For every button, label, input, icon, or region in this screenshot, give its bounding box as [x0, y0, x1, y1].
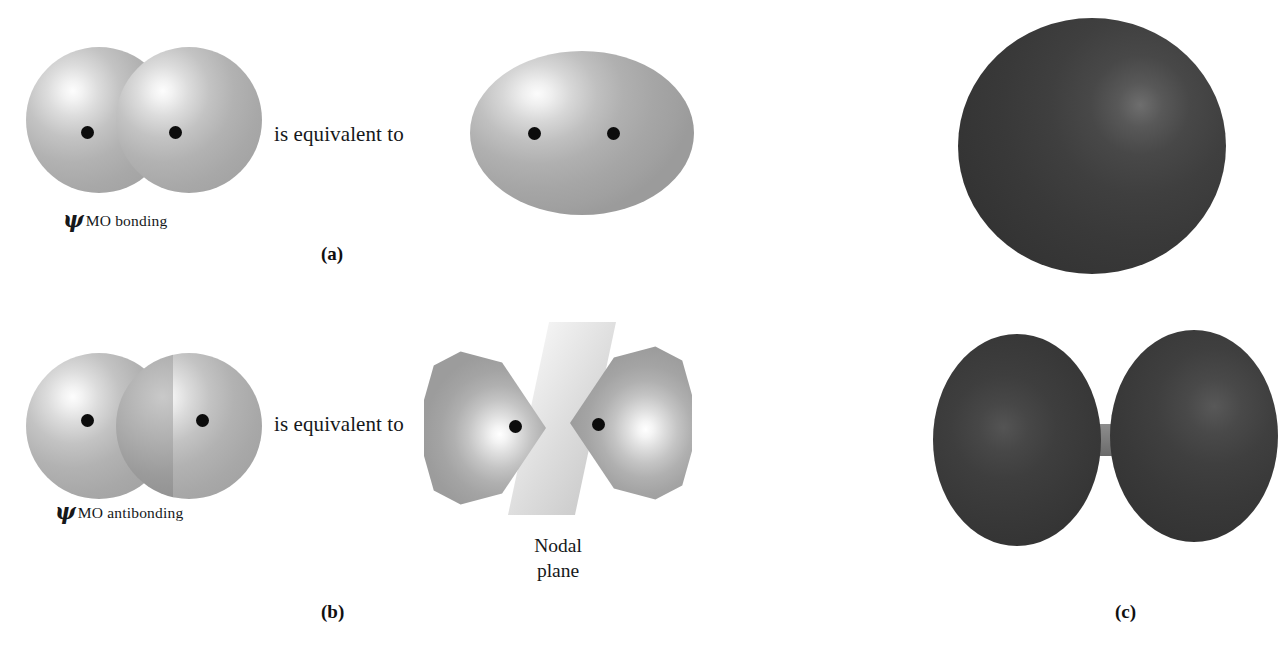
psi-symbol-antibonding: ψ	[55, 498, 76, 524]
nucleus-right-ellipsoid	[607, 127, 620, 140]
equivalent-text-b: is equivalent to	[274, 412, 404, 437]
psi-mo-antibonding-label: ψMO antibonding	[55, 498, 183, 524]
nucleus-left-antibonding	[81, 414, 94, 427]
psi-mo-bonding-label: ψMO bonding	[63, 206, 167, 232]
psi-subscript-bonding: MO bonding	[84, 212, 168, 229]
bonding-sphere-right	[116, 47, 262, 193]
dark-antibonding-lobe-left	[933, 334, 1101, 546]
panel-letter-c: (c)	[1115, 601, 1136, 623]
bonding-merged-ellipsoid	[470, 51, 694, 215]
nucleus-left-bonding	[81, 126, 94, 139]
equivalent-text-a: is equivalent to	[274, 122, 404, 147]
figure-canvas: ψMO bonding is equivalent to (a) ψMO ant…	[0, 0, 1281, 645]
nucleus-right-bonding	[169, 126, 182, 139]
psi-symbol-bonding: ψ	[63, 206, 84, 232]
nodal-plane-caption: Nodal plane	[493, 534, 623, 584]
dark-antibonding-lobe-right	[1110, 330, 1278, 542]
nucleus-left-ellipsoid	[528, 127, 541, 140]
panel-letter-a: (a)	[321, 243, 343, 265]
panel-letter-b: (b)	[321, 601, 344, 623]
dark-bonding-sphere	[958, 18, 1226, 274]
nucleus-right-antibonding	[196, 414, 209, 427]
nucleus-right-lobe	[592, 418, 605, 431]
psi-subscript-antibonding: MO antibonding	[76, 504, 184, 521]
nucleus-left-lobe	[509, 420, 522, 433]
nodal-caption-line-2: plane	[493, 559, 623, 584]
nodal-caption-line-1: Nodal	[493, 534, 623, 559]
